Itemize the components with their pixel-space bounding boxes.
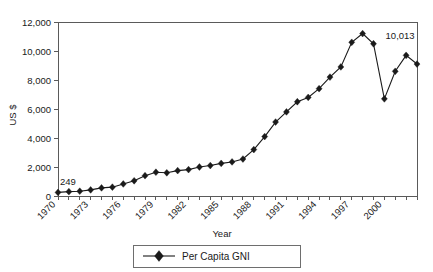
x-tick-label: 1985 <box>198 199 221 222</box>
data-point-marker <box>109 184 115 191</box>
data-point-marker <box>229 159 235 166</box>
x-axis-tick-group: 1970197319761979198219851988199119941997… <box>35 196 417 221</box>
data-point-marker <box>381 95 387 102</box>
annotation-first-value: 249 <box>60 176 76 187</box>
legend-label-0: Per Capita GNI <box>182 251 250 262</box>
x-tick-label: 1979 <box>133 199 156 222</box>
data-point-marker <box>175 167 181 174</box>
x-tick-label: 1991 <box>263 199 286 222</box>
data-series-group <box>55 30 420 196</box>
data-point-marker <box>77 188 83 195</box>
y-axis-title: US $ <box>7 104 18 126</box>
data-point-marker <box>131 177 137 184</box>
annotation-last-value: 10,013 <box>386 30 415 41</box>
y-axis-tick-group: 02,0004,0006,0008,00010,00012,000 <box>22 17 58 202</box>
x-tick-label: 1997 <box>328 199 351 222</box>
plot-frame <box>58 22 417 196</box>
data-point-marker <box>120 181 126 188</box>
x-tick-label: 1973 <box>67 199 90 222</box>
data-point-marker <box>196 164 202 171</box>
series-line-per-capita-gni <box>58 34 417 193</box>
data-point-marker <box>142 172 148 179</box>
chart-container: 02,0004,0006,0008,00010,00012,000 197019… <box>0 0 433 272</box>
x-tick-label: 1988 <box>231 199 254 222</box>
y-tick-label: 6,000 <box>27 104 51 115</box>
x-tick-label: 2000 <box>361 199 384 222</box>
data-point-marker <box>164 169 170 176</box>
chart-legend: Per Capita GNI <box>133 245 300 267</box>
data-point-marker <box>218 160 224 167</box>
x-tick-label: 1994 <box>296 199 319 222</box>
annotation-group: 24910,013 <box>60 30 415 188</box>
x-axis-title: Year <box>212 228 231 239</box>
data-point-marker <box>99 184 105 191</box>
y-tick-label: 8,000 <box>27 75 51 86</box>
data-point-marker <box>88 187 94 194</box>
data-point-marker <box>186 166 192 173</box>
y-tick-label: 10,000 <box>22 46 51 57</box>
data-point-marker <box>66 188 72 195</box>
x-tick-label: 1982 <box>165 199 188 222</box>
x-tick-label: 1970 <box>35 199 58 222</box>
data-point-marker <box>55 189 61 196</box>
data-point-marker <box>207 162 213 169</box>
x-tick-label: 1976 <box>100 199 123 222</box>
line-chart-svg: 02,0004,0006,0008,00010,00012,000 197019… <box>0 0 433 272</box>
y-tick-label: 12,000 <box>22 17 51 28</box>
y-tick-label: 4,000 <box>27 133 51 144</box>
data-point-marker <box>153 169 159 176</box>
y-tick-label: 2,000 <box>27 162 51 173</box>
